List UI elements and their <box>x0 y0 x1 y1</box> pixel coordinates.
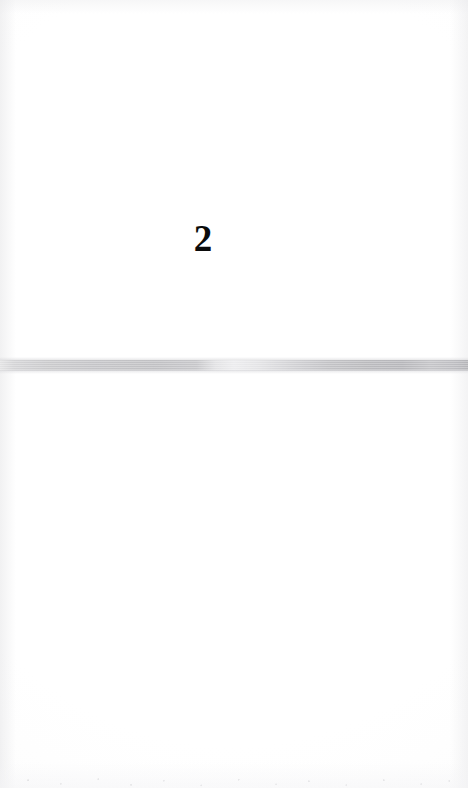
paper-background <box>0 0 468 788</box>
scanned-page: 2 <box>0 0 468 788</box>
page-number: 2 <box>188 219 218 259</box>
